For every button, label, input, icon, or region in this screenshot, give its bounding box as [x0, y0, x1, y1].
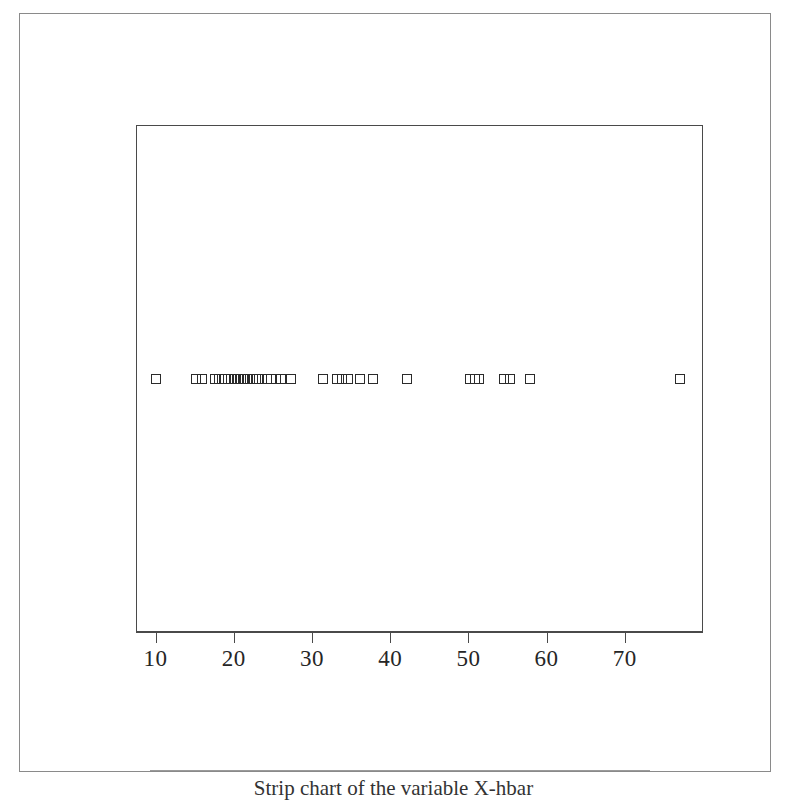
x-axis-tick-label: 40: [378, 646, 402, 672]
x-axis: 10203040506070: [136, 632, 703, 692]
x-axis-line: [136, 632, 703, 633]
x-axis-tick: [390, 632, 391, 643]
x-axis-tick-label: 20: [222, 646, 246, 672]
x-axis-tick: [312, 632, 313, 643]
x-axis-tick: [547, 632, 548, 643]
x-axis-tick: [156, 632, 157, 643]
plot-frame: [136, 125, 703, 632]
caption-rule: [150, 770, 650, 771]
x-axis-tick-label: 10: [144, 646, 168, 672]
x-axis-tick: [468, 632, 469, 643]
x-axis-tick: [625, 632, 626, 643]
x-axis-tick-label: 60: [535, 646, 559, 672]
x-axis-tick-label: 30: [300, 646, 324, 672]
x-axis-tick-label: 70: [613, 646, 637, 672]
x-axis-tick: [234, 632, 235, 643]
figure-caption: Strip chart of the variable X-hbar: [0, 776, 787, 801]
x-axis-tick-label: 50: [456, 646, 480, 672]
